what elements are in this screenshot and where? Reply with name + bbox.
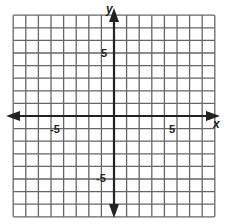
tick-label-x-neg5: -5	[50, 123, 60, 135]
tick-label-y-neg5: -5	[96, 172, 106, 184]
tick-label-y-5: 5	[101, 47, 107, 59]
y-axis	[109, 8, 119, 218]
coordinate-plane: y x 5 -5 -5 5	[0, 0, 226, 224]
y-axis-down-arrow-icon	[109, 204, 119, 218]
x-axis-label: x	[212, 117, 221, 131]
tick-label-x-5: 5	[169, 123, 175, 135]
y-axis-label: y	[105, 2, 114, 16]
